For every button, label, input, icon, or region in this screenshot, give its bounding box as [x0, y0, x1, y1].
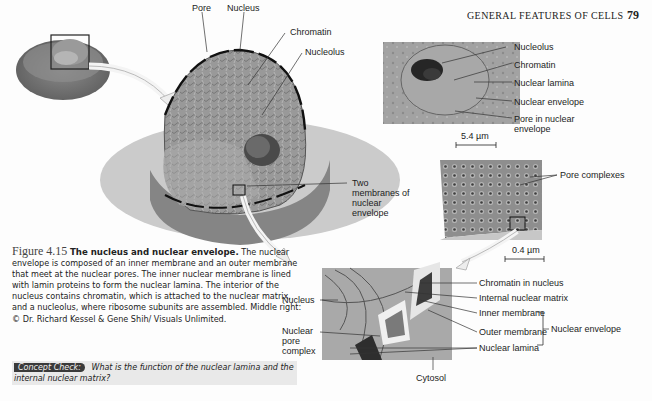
label-nuclear-pore-complex: Nuclear pore complex	[282, 326, 320, 356]
label-nucleus: Nucleus	[227, 3, 260, 13]
label-em-nucleolus: Nucleolus	[514, 42, 554, 52]
envelope-detail-illustration	[322, 262, 452, 360]
figure-title: The nucleus and nuclear envelope.	[70, 247, 239, 257]
concept-check: Concept Check: What is the function of t…	[12, 361, 297, 385]
label-em-chromatin: Chromatin	[514, 60, 556, 70]
scale-bar-5-4: 5.4 µm	[461, 131, 489, 141]
figure-caption: Figure 4.15 The nucleus and nuclear enve…	[12, 246, 302, 325]
label-pore: Pore	[192, 3, 211, 13]
label-inner-membrane: Inner membrane	[479, 308, 545, 318]
label-chromatin: Chromatin	[290, 27, 332, 37]
label-nucleolus: Nucleolus	[305, 47, 345, 57]
label-em-nuclear-lamina: Nuclear lamina	[514, 78, 574, 88]
label-two-membranes: Two membranes of nuclear envelope	[352, 178, 417, 218]
figure-caption-text: The nuclear envelope is composed of an i…	[12, 247, 301, 324]
label-pore-complexes: Pore complexes	[560, 170, 625, 180]
tem-micrograph	[383, 42, 520, 124]
concept-check-label: Concept Check:	[14, 363, 85, 372]
label-em-nuclear-envelope: Nuclear envelope	[514, 97, 584, 107]
label-em-pore: Pore in nuclear envelope	[514, 114, 589, 134]
label-chromatin-in-nucleus: Chromatin in nucleus	[479, 278, 564, 288]
freeze-fracture-micrograph	[440, 160, 542, 240]
label-nuclear-lamina: Nuclear lamina	[479, 343, 539, 353]
scale-bar-0-4: 0.4 µm	[512, 245, 540, 255]
label-nuclear-envelope: Nuclear envelope	[551, 324, 621, 334]
label-outer-membrane: Outer membrane	[479, 327, 547, 337]
label-internal-nuclear-matrix: Internal nuclear matrix	[479, 293, 568, 303]
label-cytosol: Cytosol	[416, 373, 446, 383]
figure-number: Figure 4.15	[12, 244, 67, 258]
